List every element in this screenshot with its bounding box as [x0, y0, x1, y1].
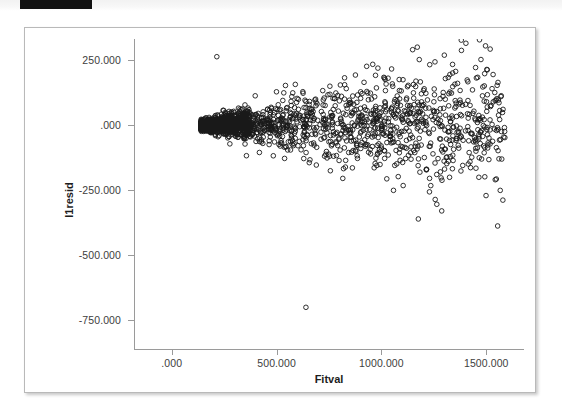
top-banner [0, 0, 562, 11]
x-tick-label: 1500.000 [464, 357, 509, 369]
scatter-plot-area [134, 39, 524, 349]
x-tick [381, 349, 382, 355]
y-tick-label: 250.000 [82, 54, 128, 66]
redaction-bar [20, 0, 92, 9]
y-tick-label: -250.000 [79, 184, 128, 196]
y-tick-label: -750.000 [79, 314, 128, 326]
x-tick [172, 349, 173, 355]
x-axis-title: Fitval [134, 373, 524, 385]
chart-card: 250.000.000-250.000-500.000-750.000 .000… [24, 27, 536, 393]
y-tick-label: -500.000 [79, 249, 128, 261]
x-tick [277, 349, 278, 355]
x-tick-label: 500.000 [257, 357, 296, 369]
scatter-points [134, 39, 524, 349]
x-tick-label: .000 [161, 357, 182, 369]
x-tick-label: 1000.000 [359, 357, 404, 369]
x-axis-line [134, 349, 524, 350]
y-axis-title: l1resid [63, 182, 75, 217]
y-tick-label: .000 [100, 119, 128, 131]
x-tick [486, 349, 487, 355]
